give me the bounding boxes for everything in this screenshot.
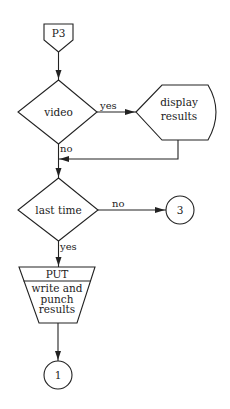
edge-label-video-yes: yes xyxy=(99,100,117,111)
display-results: display results xyxy=(136,85,216,140)
decision-video-label: video xyxy=(43,106,73,118)
arrow-put-to-connector-1 xyxy=(55,323,61,361)
arrow-video-no: no xyxy=(56,143,73,178)
edge-label-last-time-no: no xyxy=(112,198,124,209)
connector-3: 3 xyxy=(166,196,194,224)
edge-label-video-no: no xyxy=(60,143,72,154)
display-line1: display xyxy=(160,96,198,108)
start-label: P3 xyxy=(52,27,66,39)
connector-1-label: 1 xyxy=(55,369,62,381)
display-line2: results xyxy=(161,110,197,122)
arrow-last-time-no: no xyxy=(98,198,166,213)
connector-3-label: 3 xyxy=(177,204,184,216)
start-connector-p3: P3 xyxy=(44,24,73,52)
arrow-display-return xyxy=(59,140,178,162)
decision-video: video xyxy=(18,80,97,144)
arrow-start-to-video xyxy=(56,52,62,80)
decision-last-time-label: last time xyxy=(35,204,81,216)
decision-last-time: last time xyxy=(18,178,98,241)
put-header: PUT xyxy=(46,268,69,280)
flowchart-canvas: P3 video yes display results no last tim… xyxy=(0,0,230,409)
arrow-last-time-yes: yes xyxy=(56,241,77,267)
put-operation: PUT write and punch results xyxy=(19,267,95,323)
arrow-video-yes: yes xyxy=(97,100,136,115)
edge-label-last-time-yes: yes xyxy=(59,241,77,252)
put-line3: results xyxy=(39,303,75,315)
connector-1: 1 xyxy=(44,361,72,389)
